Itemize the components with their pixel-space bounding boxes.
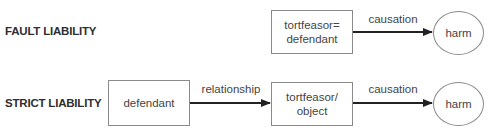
harm-node-strict: harm: [433, 82, 484, 126]
node-line-1: tortfeasor/: [286, 90, 338, 104]
causation-label-strict: causation: [368, 83, 417, 95]
defendant-node: defendant: [108, 80, 190, 126]
tortfeasor-object-node: tortfeasor/ object: [271, 82, 353, 126]
tortfeasor-defendant-node: tortfeasor= defendant: [271, 10, 353, 54]
causation-label-fault: causation: [368, 13, 417, 25]
harm-node-fault: harm: [433, 11, 484, 55]
node-line-2: defendant: [284, 32, 339, 46]
relationship-label: relationship: [202, 83, 261, 95]
node-line-1: tortfeasor=: [284, 18, 339, 32]
node-line-2: object: [286, 104, 338, 118]
